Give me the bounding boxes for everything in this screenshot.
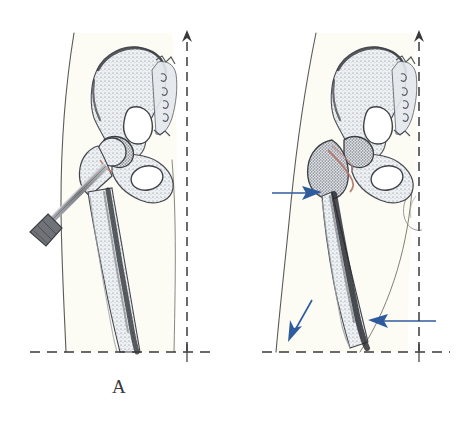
figure-container: A [0, 0, 472, 428]
panel-a-caption: A [99, 376, 139, 398]
panel-a-illustration [0, 0, 236, 428]
dashed-vertical-axis-with-arrow [182, 30, 192, 356]
panel-b-illustration [236, 0, 472, 428]
panel-b: B [236, 0, 472, 428]
panel-a: A [0, 0, 236, 428]
